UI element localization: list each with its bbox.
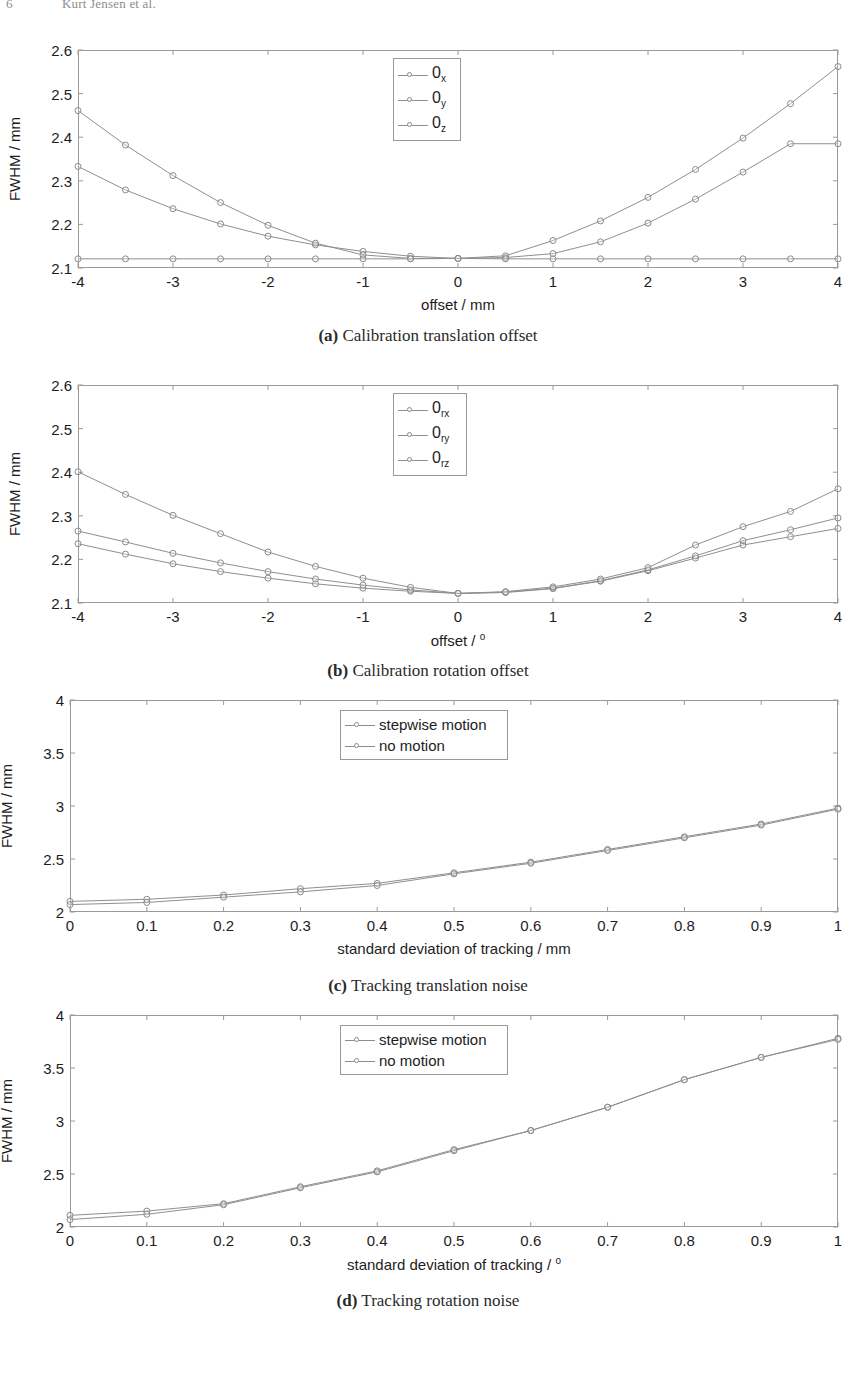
x-axis-title: offset / o	[431, 631, 485, 649]
data-point-marker	[503, 256, 509, 262]
y-tick-label: 2.3	[30, 172, 72, 189]
data-point-marker	[598, 218, 604, 224]
data-point-marker	[645, 565, 651, 571]
legend-item[interactable]: no motion	[345, 735, 501, 756]
caption-b-label: (b)	[327, 661, 348, 680]
figure-a: -4-3-2-1012342.12.22.32.42.52.6offset / …	[0, 40, 856, 346]
data-series-group	[67, 805, 841, 907]
data-point-marker	[313, 563, 319, 569]
data-point-marker	[788, 527, 794, 533]
legend-label: 0rx	[432, 400, 449, 419]
x-tick-label: -2	[261, 273, 274, 290]
legend-label: no motion	[379, 1053, 445, 1068]
x-tick-label: 0.6	[520, 917, 541, 934]
legend-line-marker-icon	[398, 430, 428, 440]
data-point-marker	[265, 256, 271, 262]
page-header: 6 Kurt Jensen et al.	[0, 0, 856, 14]
chart-legend[interactable]: 0x0y0z	[393, 58, 461, 141]
data-point-marker	[123, 187, 129, 193]
y-axis-title: FWHM / mm	[0, 1079, 15, 1163]
data-point-marker	[75, 108, 81, 114]
legend-item[interactable]: 0z	[398, 112, 454, 137]
x-tick-label: 3	[739, 273, 747, 290]
data-point-marker	[550, 584, 556, 590]
x-tick-label: 0.8	[674, 917, 695, 934]
data-point-marker	[835, 64, 841, 70]
legend-line-marker-icon	[345, 720, 375, 730]
x-tick-label: 0.2	[213, 917, 234, 934]
data-point-marker	[528, 1128, 534, 1134]
data-point-marker	[218, 569, 224, 575]
data-point-marker	[297, 1185, 303, 1191]
series-line	[78, 518, 838, 593]
legend-line-marker-icon	[398, 405, 428, 415]
data-point-marker	[265, 549, 271, 555]
data-point-marker	[170, 256, 176, 262]
data-point-marker	[835, 1036, 841, 1042]
data-point-marker	[788, 508, 794, 514]
data-point-marker	[451, 1148, 457, 1154]
legend-label: no motion	[379, 738, 445, 753]
x-tick-label: 0.8	[674, 1232, 695, 1249]
x-tick-label: 1	[834, 917, 842, 934]
x-tick-label: -3	[166, 273, 179, 290]
x-tick-label: 4	[834, 273, 842, 290]
series-line	[78, 472, 838, 594]
legend-line-marker-icon	[398, 120, 428, 130]
y-tick-label: 4	[22, 1007, 64, 1024]
y-tick-label: 2.2	[30, 216, 72, 233]
data-point-marker	[408, 256, 414, 262]
data-point-marker	[75, 256, 81, 262]
data-point-marker	[835, 525, 841, 531]
legend-line-marker-icon	[398, 95, 428, 105]
caption-d-text: Tracking rotation noise	[361, 1291, 519, 1310]
y-tick-label: 3	[22, 1113, 64, 1130]
legend-item[interactable]: 0x	[398, 62, 454, 87]
data-point-marker	[835, 141, 841, 147]
legend-item[interactable]: 0ry	[398, 422, 460, 447]
legend-label: 0y	[432, 90, 446, 109]
legend-item[interactable]: 0rx	[398, 397, 460, 422]
x-tick-label: 1	[834, 1232, 842, 1249]
data-point-marker	[528, 860, 534, 866]
x-tick-label: 4	[834, 608, 842, 625]
data-point-marker	[408, 584, 414, 590]
x-tick-label: -4	[71, 608, 84, 625]
y-tick-label: 2.5	[22, 851, 64, 868]
data-point-marker	[740, 135, 746, 141]
y-tick-label: 2.6	[30, 42, 72, 59]
figure-d: 00.10.20.30.40.50.60.70.80.9122.533.54st…	[0, 1005, 856, 1311]
x-tick-label: 3	[739, 608, 747, 625]
caption-a-label: (a)	[318, 326, 338, 345]
data-point-marker	[605, 848, 611, 854]
y-axis-title: FWHM / mm	[6, 452, 23, 536]
data-series-group	[75, 469, 841, 597]
legend-item[interactable]: stepwise motion	[345, 714, 501, 735]
caption-d-label: (d)	[337, 1291, 358, 1310]
chart-legend[interactable]: 0rx0ry0rz	[393, 393, 467, 476]
data-point-marker	[170, 173, 176, 179]
legend-item[interactable]: stepwise motion	[345, 1029, 501, 1050]
caption-a-text: Calibration translation offset	[342, 326, 537, 345]
x-tick-label: 0.4	[367, 1232, 388, 1249]
data-point-marker	[740, 524, 746, 530]
data-point-marker	[218, 200, 224, 206]
x-tick-label: 1	[549, 273, 557, 290]
data-point-marker	[75, 469, 81, 475]
data-point-marker	[144, 1211, 150, 1217]
legend-item[interactable]: no motion	[345, 1050, 501, 1071]
legend-item[interactable]: 0y	[398, 87, 454, 112]
data-point-marker	[123, 256, 129, 262]
x-tick-label: 0.1	[136, 917, 157, 934]
chart-legend[interactable]: stepwise motionno motion	[340, 710, 508, 760]
y-tick-label: 2	[22, 904, 64, 921]
legend-item[interactable]: 0rz	[398, 447, 460, 472]
data-point-marker	[123, 142, 129, 148]
x-tick-label: 2	[644, 273, 652, 290]
chart-legend[interactable]: stepwise motionno motion	[340, 1025, 508, 1075]
caption-c-label: (c)	[328, 976, 347, 995]
data-point-marker	[788, 534, 794, 540]
x-tick-label: 0.9	[751, 1232, 772, 1249]
caption-d: (d) Tracking rotation noise	[0, 1291, 856, 1311]
legend-line-marker-icon	[345, 1035, 375, 1045]
